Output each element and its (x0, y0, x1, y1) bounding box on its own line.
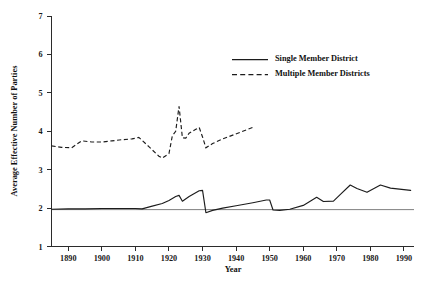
y-tick-label: 7 (38, 12, 42, 21)
y-tick-label: 4 (38, 127, 42, 136)
x-tick-label: 1930 (194, 254, 210, 263)
x-tick-label: 1990 (396, 254, 412, 263)
y-axis-title: Average Effective Number of Parties (10, 65, 19, 197)
y-tick-label: 2 (38, 204, 42, 213)
y-tick-label: 5 (38, 89, 42, 98)
x-tick-label: 1980 (362, 254, 378, 263)
x-tick-label: 1900 (94, 254, 110, 263)
x-tick-label: 1890 (60, 254, 76, 263)
x-tick-label: 1940 (228, 254, 244, 263)
legend-label-multiple-member-districts: Multiple Member Districts (275, 69, 371, 78)
x-axis-title: Year (225, 265, 242, 274)
x-tick-label: 1950 (261, 254, 277, 263)
x-tick-label: 1910 (127, 254, 143, 263)
x-tick-label: 1920 (161, 254, 177, 263)
chart-figure: 1234567 18901900191019201930194019501960… (0, 0, 423, 289)
x-tick-label: 1970 (329, 254, 345, 263)
y-tick-label: 1 (38, 243, 42, 252)
legend-label-single-member-district: Single Member District (275, 54, 358, 63)
y-tick-label: 3 (38, 166, 42, 175)
y-tick-label: 6 (38, 50, 42, 59)
x-tick-label: 1960 (295, 254, 311, 263)
